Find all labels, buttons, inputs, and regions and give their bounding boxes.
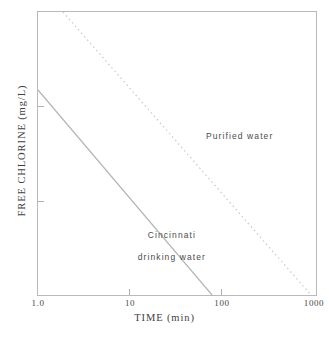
annotation-cincinnati-drinking-water: Cincinnati drinking water [110, 219, 206, 274]
x-axis-label: TIME (min) [0, 312, 329, 323]
x-tick-mark-100 [221, 289, 222, 295]
annotation-cincinnati-line2: drinking water [138, 252, 206, 262]
y-tick-mark-10 [38, 106, 44, 107]
plot-area: Purified water Cincinnati drinking water [37, 11, 317, 296]
x-tick-label-100: 100 [214, 298, 229, 308]
chart-figure: FREE CHLORINE (mg/L) 100 10 1.0 0.1 1.0 … [0, 0, 329, 337]
plot-inner: Purified water Cincinnati drinking water [38, 12, 316, 295]
y-tick-mark-1 [38, 201, 44, 202]
x-tick-label-1: 1.0 [31, 298, 44, 308]
x-tick-label-1000: 1000 [304, 298, 324, 308]
annotation-cincinnati-line1: Cincinnati [148, 230, 196, 240]
x-tick-mark-10 [129, 289, 130, 295]
y-axis-label: FREE CHLORINE (mg/L) [16, 41, 27, 261]
bottom-scan-artifact [8, 330, 321, 335]
x-tick-label-10: 10 [125, 298, 135, 308]
annotation-purified-water: Purified water [206, 131, 273, 142]
